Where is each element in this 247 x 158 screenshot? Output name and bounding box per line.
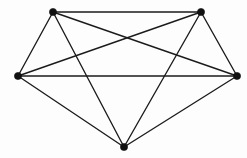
graph-svg [0, 0, 247, 158]
vertex-layer [14, 8, 240, 150]
graph-edge-top-right-to-bottom [124, 12, 201, 147]
graph-edge-top-left-to-left [18, 12, 53, 76]
graph-vertex-left [14, 72, 21, 79]
edge-layer [18, 12, 237, 147]
graph-edge-right-to-bottom [124, 76, 237, 147]
graph-vertex-top-right [197, 8, 204, 15]
graph-edge-left-to-bottom [18, 76, 124, 147]
graph-edge-top-left-to-bottom [53, 12, 124, 147]
graph-edge-top-right-to-left [18, 12, 201, 76]
graph-vertex-right [233, 72, 240, 79]
graph-vertex-top-left [49, 8, 56, 15]
graph-diagram-canvas [0, 0, 247, 158]
graph-vertex-bottom [120, 143, 127, 150]
graph-edge-top-left-to-right [53, 12, 237, 76]
graph-edge-top-right-to-right [201, 12, 237, 76]
